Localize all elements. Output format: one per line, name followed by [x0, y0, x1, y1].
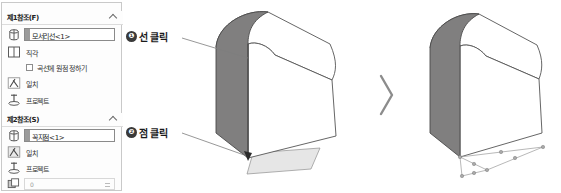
reference-entity-icon-2 [7, 129, 21, 143]
second-reference-selection-row[interactable]: 꼭지점<1> [2, 128, 123, 145]
second-reference-value: 꼭지점<1> [32, 132, 64, 142]
spinner-arrows[interactable] [105, 181, 111, 189]
screenshot-root: ❶선 클릭 ❷점 클릭 제1참조(F) 모서리선<1> [0, 0, 561, 193]
offset-distance-input[interactable]: 0 [24, 178, 115, 190]
option-coincident-second[interactable]: 일치 [2, 144, 123, 161]
second-reference-input[interactable]: 꼭지점<1> [24, 129, 115, 142]
option-project-second-label: 프로젝트 [26, 164, 49, 174]
section-header-first-reference[interactable]: 제1참조(F) [2, 11, 123, 25]
offset-distance-row[interactable]: 0 [2, 176, 123, 193]
option-project-first-label: 프로젝트 [26, 96, 49, 106]
option-perpendicular-label: 직각 [26, 48, 37, 58]
coincident-icon [7, 76, 21, 90]
first-reference-selection-row[interactable]: 모서리선<1> [2, 27, 123, 44]
option-set-origin-on-curve[interactable]: 곡선에 원점 정하기 [2, 61, 123, 75]
selection-color-swatch-2 [25, 130, 30, 141]
set-origin-on-curve-label: 곡선에 원점 정하기 [37, 63, 86, 73]
option-project-second[interactable]: 프로젝트 [2, 160, 123, 177]
first-reference-input[interactable]: 모서리선<1> [24, 28, 115, 41]
offset-distance-icon [7, 177, 21, 191]
section-title-second-reference: 제2참조(S) [7, 114, 39, 124]
callout-1-badge: ❶ [126, 31, 137, 42]
coincident-icon-2 [7, 145, 21, 159]
option-coincident-second-label: 일치 [26, 148, 37, 158]
callout-1-label: 선 클릭 [139, 29, 167, 44]
option-coincident-first-label: 일치 [26, 79, 37, 89]
callout-2: ❷점 클릭 [126, 122, 167, 141]
before-model[interactable] [182, 12, 336, 174]
selection-color-swatch [25, 29, 30, 40]
option-coincident-first[interactable]: 일치 [2, 75, 123, 92]
offset-distance-value: 0 [30, 181, 34, 188]
project-icon-2 [7, 161, 21, 175]
section-title-first-reference: 제1참조(F) [7, 12, 39, 22]
chevron-right-icon [381, 76, 392, 114]
callout-2-badge: ❷ [126, 127, 137, 138]
perpendicular-icon [7, 45, 21, 59]
project-icon [7, 93, 21, 107]
chevron-up-icon[interactable] [110, 14, 117, 19]
first-reference-value: 모서리선<1> [32, 31, 70, 41]
callout-1: ❶선 클릭 [126, 26, 167, 45]
chevron-up-icon-2[interactable] [110, 116, 117, 121]
option-perpendicular[interactable]: 직각 [2, 44, 123, 61]
reference-geometry-panel[interactable]: 제1참조(F) 모서리선<1> [1, 2, 122, 191]
reference-entity-icon [7, 28, 21, 42]
set-origin-on-curve-checkbox[interactable] [26, 64, 33, 71]
option-project-first[interactable]: 프로젝트 [2, 92, 123, 109]
after-model[interactable] [430, 14, 545, 178]
callout-2-label: 점 클릭 [139, 125, 167, 140]
section-header-second-reference[interactable]: 제2참조(S) [2, 113, 123, 127]
